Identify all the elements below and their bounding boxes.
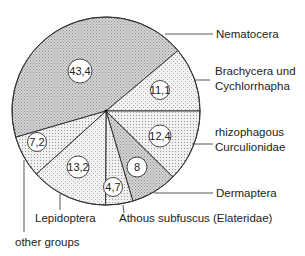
value-bubble-athous: 4,7 — [104, 178, 123, 197]
label-nematocera: Nematocera — [216, 28, 279, 40]
value-bubble-other-groups: 7,2 — [28, 133, 47, 152]
label-dermaptera: Dermaptera — [216, 187, 277, 199]
value-bubble-rhizophagous: 12,4 — [149, 125, 171, 147]
label-lepidoptera: Lepidoptera — [35, 212, 96, 224]
value-bubble-dermaptera: 8 — [127, 157, 147, 177]
svg-text:4,7: 4,7 — [105, 181, 120, 193]
svg-text:11,1: 11,1 — [150, 84, 171, 96]
pie-chart: 43,4 11,1 12,4 8 4,7 13,2 7,2 Nematocera… — [0, 0, 305, 256]
label-rhizophagous-line2: Curculionidae — [215, 141, 285, 153]
label-other-groups: other groups — [15, 236, 80, 248]
label-brachycera-line1: Brachycera und — [215, 65, 296, 77]
pie-center-dot — [104, 109, 107, 112]
label-rhizophagous-line1: rhizophagous — [215, 126, 284, 138]
label-brachycera-line2: Cychlorrhapha — [215, 80, 290, 92]
svg-text:13,2: 13,2 — [67, 161, 88, 173]
svg-text:12,4: 12,4 — [149, 130, 170, 142]
label-athous: Athous subfuscus (Elateridae) — [119, 212, 273, 224]
svg-text:43,4: 43,4 — [69, 65, 90, 77]
value-bubble-nematocera: 43,4 — [68, 59, 92, 83]
svg-text:8: 8 — [134, 161, 140, 173]
value-bubble-brachycera: 11,1 — [150, 81, 171, 100]
value-bubble-lepidoptera: 13,2 — [67, 156, 89, 178]
svg-text:7,2: 7,2 — [29, 136, 44, 148]
